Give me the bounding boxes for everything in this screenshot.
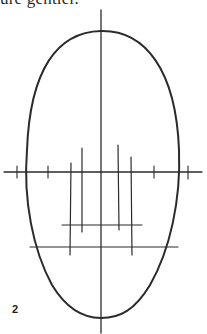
- head-oval: [26, 31, 179, 318]
- guide-vertical-1: [70, 163, 71, 255]
- face-sketch: [0, 0, 207, 334]
- figure-number: 2: [12, 303, 18, 315]
- guide-vertical-3: [118, 145, 119, 230]
